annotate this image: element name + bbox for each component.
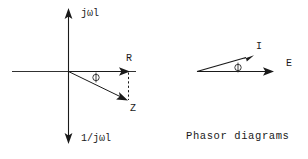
imaginary-axis-down-label: 1/jωl <box>81 133 111 144</box>
impedance-label: Z <box>130 103 136 114</box>
figure-caption: Phasor diagrams <box>186 130 290 142</box>
phasor-figure: jωl 1/jωl R Z ϕ I E ϕ Phasor diagrams <box>0 0 308 159</box>
impedance-vector-arrowhead <box>116 92 128 100</box>
impedance-diagram-graphics <box>12 8 136 144</box>
imaginary-axis-up-label: jωl <box>81 8 99 19</box>
voltage-phasor-label: E <box>286 58 292 69</box>
phasor-diagram-graphics <box>197 55 274 75</box>
current-phasor-label: I <box>256 41 262 52</box>
resistance-label: R <box>126 53 132 64</box>
